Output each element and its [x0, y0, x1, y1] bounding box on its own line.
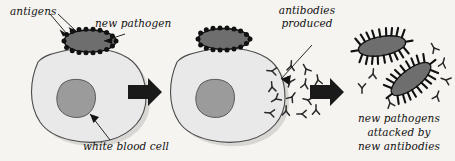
stage-1-group: [32, 14, 151, 146]
label-white-blood-cell: white blood cell: [83, 140, 169, 153]
arrow-stage-2-to-3: [310, 78, 344, 106]
label-antibodies-produced-line2: produced: [268, 17, 346, 30]
label-result-line3: new antibodies: [345, 140, 453, 153]
label-antibodies-produced-line1: antibodies: [268, 4, 346, 17]
label-antigens: antigens: [10, 5, 57, 18]
nucleus-1: [57, 79, 96, 117]
nucleus-2: [196, 79, 235, 117]
antibodies-produced-leader: [281, 45, 312, 79]
immune-response-diagram: antigens new pathogen antibodies produce…: [0, 0, 455, 161]
label-new-pathogen: new pathogen: [95, 17, 171, 30]
stage-2-group: [171, 26, 323, 147]
label-result-line2: attacked by: [345, 126, 453, 139]
new-pathogen-3b: [376, 47, 446, 112]
stage-3-group: [349, 24, 452, 112]
label-result-line1: new pathogens: [345, 112, 453, 125]
